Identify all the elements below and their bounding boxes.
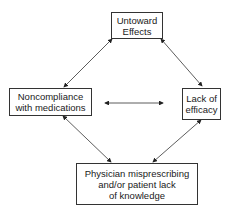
arrow-left-bottom — [63, 116, 111, 162]
node-lack-of-efficacy: Lack of efficacy — [182, 88, 221, 120]
node-noncompliance: Noncompliance with medications — [9, 88, 92, 116]
arrow-top-left — [64, 39, 112, 87]
arrow-right-bottom — [153, 120, 201, 162]
node-untoward-effects: Untoward Effects — [111, 12, 163, 39]
node-physician-misprescribing: Physician misprescribing and/or patient … — [76, 163, 198, 205]
arrow-top-right — [161, 39, 202, 86]
